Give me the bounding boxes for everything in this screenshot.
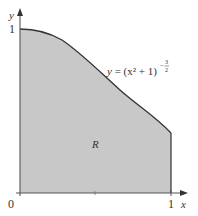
x-axis-arrow-icon bbox=[180, 190, 188, 196]
y-axis-label: y bbox=[8, 9, 14, 21]
x-axis-label: x bbox=[180, 198, 186, 210]
equation-equals: = bbox=[112, 65, 124, 77]
equation-body: (x² + 1) bbox=[124, 65, 158, 78]
x-tick-label-1: 1 bbox=[168, 197, 174, 211]
svg-text:y = (x² + 1): y = (x² + 1) bbox=[106, 65, 157, 78]
region-label: R bbox=[91, 138, 99, 150]
y-axis-arrow-icon bbox=[17, 8, 23, 16]
exponent-numerator: 3 bbox=[165, 59, 168, 65]
exponent-denominator: 2 bbox=[165, 67, 168, 73]
y-tick-label-1: 1 bbox=[9, 22, 15, 36]
x-tick-label-0: 0 bbox=[8, 197, 14, 211]
equation-label: y = (x² + 1) − 3 2 bbox=[106, 59, 169, 78]
region-diagram: y 1 0 1 x R y = (x² + 1) − 3 2 bbox=[0, 0, 198, 216]
exponent-sign: − bbox=[160, 62, 164, 70]
shaded-region-r bbox=[20, 29, 171, 193]
